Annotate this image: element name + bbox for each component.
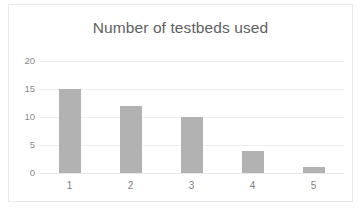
y-axis-tick-label: 5 — [9, 140, 35, 150]
y-axis-tick-labels: 05101520 — [9, 61, 35, 173]
y-axis-tick-label: 10 — [9, 112, 35, 122]
x-axis-tick-label: 1 — [67, 181, 73, 191]
x-axis-tick-label: 2 — [128, 181, 134, 191]
plot-area — [39, 61, 344, 173]
bar[interactable] — [120, 106, 142, 173]
chart-container: Number of testbeds used 05101520 12345 — [8, 4, 353, 202]
y-axis-tick-label: 20 — [9, 56, 35, 66]
x-axis-tick-label: 3 — [189, 181, 195, 191]
y-axis-tick-label: 15 — [9, 84, 35, 94]
x-axis-tick-label: 4 — [250, 181, 256, 191]
bar-slot — [39, 61, 100, 173]
gridline — [39, 173, 344, 174]
bar-slot — [222, 61, 283, 173]
bar[interactable] — [59, 89, 81, 173]
bar-slot — [161, 61, 222, 173]
x-axis-tick-labels: 12345 — [39, 181, 344, 197]
bar-series — [39, 61, 344, 173]
y-axis-tick-label: 0 — [9, 168, 35, 178]
chart-title: Number of testbeds used — [9, 19, 352, 37]
bar[interactable] — [303, 167, 325, 173]
bar[interactable] — [242, 151, 264, 173]
bar-slot — [283, 61, 344, 173]
bar[interactable] — [181, 117, 203, 173]
x-axis-tick-label: 5 — [311, 181, 317, 191]
bar-slot — [100, 61, 161, 173]
